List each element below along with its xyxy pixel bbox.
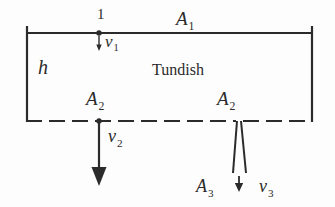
label-area-A2-left-subscript: 2 [98, 100, 105, 113]
diagram-canvas [0, 0, 335, 207]
label-velocity-v3-symbol: v [259, 176, 267, 196]
label-area-A2-right: A2 [217, 89, 236, 113]
label-area-A3-symbol: A [196, 176, 207, 196]
nozzle-right-wall [241, 121, 246, 173]
label-area-A1: A1 [176, 9, 195, 33]
label-velocity-v2-symbol: v [108, 126, 116, 146]
label-height-h: h [38, 57, 48, 77]
label-velocity-v1: v1 [105, 33, 119, 54]
label-area-A2-left: A2 [86, 89, 105, 113]
label-area-A2-right-symbol: A [217, 88, 229, 109]
inlet-point-marker [96, 30, 101, 35]
tundish-diagram: 1 A1 v1 h Tundish A2 A2 v2 A3 v3 [0, 0, 335, 207]
label-area-A2-left-symbol: A [86, 88, 98, 109]
nozzle-left-wall [233, 121, 237, 173]
label-velocity-v1-subscript: 1 [113, 42, 119, 53]
label-area-A3-subscript: 3 [207, 187, 214, 199]
label-area-A1-subscript: 1 [188, 20, 195, 33]
label-area-A3: A3 [196, 177, 214, 199]
label-point-1: 1 [97, 7, 105, 22]
velocity-top-arrow [96, 36, 101, 51]
velocity-outlet-arrow [92, 123, 107, 186]
label-velocity-v2-subscript: 2 [116, 137, 123, 149]
label-area-A1-symbol: A [176, 8, 188, 29]
label-velocity-v3-subscript: 3 [267, 187, 274, 199]
label-velocity-v2: v2 [108, 127, 123, 149]
label-velocity-v3: v3 [259, 177, 274, 199]
label-vessel-name: Tundish [152, 62, 204, 78]
outlet-point-marker [96, 118, 101, 123]
label-area-A2-right-subscript: 2 [229, 100, 236, 113]
velocity-nozzle-arrow [235, 176, 243, 192]
label-velocity-v1-symbol: v [105, 32, 113, 51]
